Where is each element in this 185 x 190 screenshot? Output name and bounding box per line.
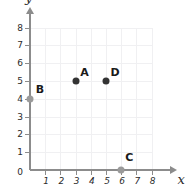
coordinate-plane-chart: 12345678123456780 x y ABCD (0, 0, 185, 190)
y-axis-label: y (25, 0, 32, 4)
data-point-c (118, 167, 125, 174)
x-axis-tick-label: 5 (104, 177, 110, 186)
data-point-label-a: A (80, 67, 89, 78)
data-point-label-b: B (36, 83, 44, 94)
grid-line-vertical (152, 28, 153, 170)
x-axis-tick (45, 171, 46, 175)
y-axis (29, 14, 31, 170)
origin-label: 0 (12, 168, 23, 177)
y-axis-arrow-icon (26, 7, 34, 14)
grid-line-horizontal (30, 63, 152, 64)
grid-line-horizontal (30, 45, 152, 46)
x-axis-tick (60, 171, 61, 175)
data-point-label-d: D (110, 67, 119, 78)
data-point-b (27, 95, 34, 102)
x-axis-tick-label: 3 (74, 177, 80, 186)
grid-line-horizontal (30, 99, 152, 100)
y-axis-tick (25, 152, 29, 153)
x-axis-arrow-icon (170, 166, 177, 174)
x-axis-tick (76, 171, 77, 175)
x-axis-tick (136, 171, 137, 175)
y-axis-tick (25, 45, 29, 46)
x-axis-tick-label: 2 (59, 177, 65, 186)
x-axis (30, 169, 170, 171)
y-axis-tick-label: 2 (12, 130, 23, 139)
x-axis-label: x (178, 173, 185, 186)
y-axis-tick (25, 28, 29, 29)
grid-line-horizontal (30, 152, 152, 153)
y-axis-tick-label: 6 (12, 59, 23, 68)
y-axis-tick-label: 8 (12, 23, 23, 32)
y-axis-tick (25, 117, 29, 118)
x-axis-tick-label: 8 (150, 177, 156, 186)
y-axis-tick-label: 7 (12, 41, 23, 50)
y-axis-tick-label: 4 (12, 94, 23, 103)
y-axis-tick (25, 134, 29, 135)
x-axis-tick (91, 171, 92, 175)
y-axis-tick (25, 63, 29, 64)
x-axis-tick (152, 171, 153, 175)
grid-line-horizontal (30, 81, 152, 82)
grid-line-horizontal (30, 134, 152, 135)
data-point-d (103, 78, 110, 85)
x-axis-tick-label: 4 (89, 177, 95, 186)
grid-line-horizontal (30, 117, 152, 118)
x-axis-tick-label: 1 (43, 177, 49, 186)
x-axis-tick (106, 171, 107, 175)
y-axis-tick-label: 1 (12, 148, 23, 157)
x-axis-tick-label: 7 (135, 177, 141, 186)
y-axis-tick-label: 3 (12, 112, 23, 121)
y-axis-tick-label: 5 (12, 77, 23, 86)
data-point-label-c: C (125, 152, 133, 163)
data-point-a (72, 78, 79, 85)
y-axis-tick (25, 81, 29, 82)
grid-line-horizontal (30, 28, 152, 29)
x-axis-tick-label: 6 (119, 177, 125, 186)
